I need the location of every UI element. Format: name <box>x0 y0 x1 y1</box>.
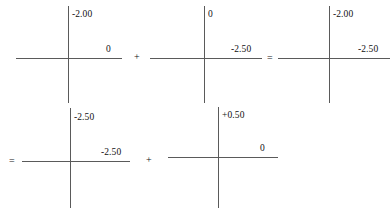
cross-3-horizontal-power-label: -2.50 <box>358 44 378 55</box>
cross-5-vertical-axis <box>218 107 219 208</box>
cross-2-vertical-power-label: 0 <box>208 9 213 20</box>
cross-1-horizontal-axis <box>16 58 122 59</box>
cross-5-horizontal-power-label: 0 <box>260 143 265 154</box>
cross-4-vertical-power-label: -2.50 <box>74 112 94 123</box>
cross-3-vertical-power-label: -2.00 <box>333 9 353 20</box>
cross-4-horizontal-axis <box>22 161 130 162</box>
optical-cross-equation-figure: -2.00 0 + 0 -2.50 = -2.00 -2.50 = -2.50 … <box>0 0 390 215</box>
cross-5-horizontal-axis <box>168 157 278 158</box>
cross-4-vertical-axis <box>70 108 71 208</box>
cross-4-horizontal-power-label: -2.50 <box>101 147 121 158</box>
cross-1-vertical-axis <box>68 6 69 103</box>
operator-plus-1: + <box>134 52 140 62</box>
operator-plus-2: + <box>146 155 152 165</box>
cross-3-vertical-axis <box>329 6 330 103</box>
cross-1-vertical-power-label: -2.00 <box>72 9 92 20</box>
cross-1-horizontal-power-label: 0 <box>106 44 111 55</box>
cross-3-horizontal-axis <box>278 58 390 59</box>
cross-2-horizontal-power-label: -2.50 <box>231 44 251 55</box>
cross-5-vertical-power-label: +0.50 <box>222 110 244 121</box>
cross-2-horizontal-axis <box>150 58 262 59</box>
operator-equals-1: = <box>267 53 273 63</box>
cross-2-vertical-axis <box>204 6 205 103</box>
operator-equals-2: = <box>9 156 15 166</box>
